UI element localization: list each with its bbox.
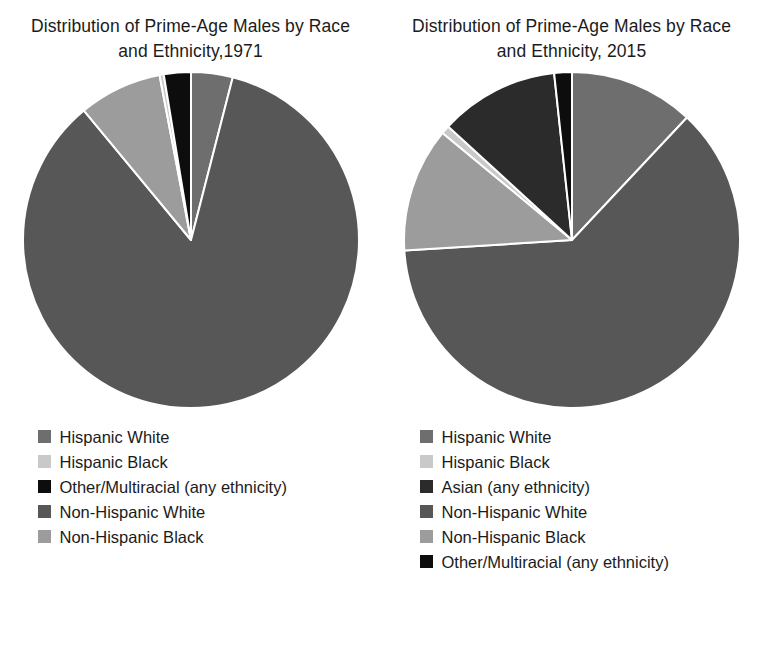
legend-item-label: Other/Multiracial (any ethnicity) — [60, 477, 287, 497]
legend-item[interactable]: Hispanic Black — [420, 449, 740, 474]
legend-swatch-icon — [420, 530, 433, 543]
legend-1971: Hispanic WhiteHispanic BlackOther/Multir… — [28, 424, 358, 549]
legend-swatch-icon — [420, 480, 433, 493]
legend-item[interactable]: Non-Hispanic White — [38, 499, 358, 524]
pie-chart-2015 — [402, 70, 742, 410]
legend-item[interactable]: Hispanic White — [420, 424, 740, 449]
legend-swatch-icon — [38, 430, 51, 443]
legend-item[interactable]: Non-Hispanic White — [420, 499, 740, 524]
pie-slices-2015 — [404, 72, 740, 408]
legend-swatch-icon — [420, 555, 433, 568]
legend-swatch-icon — [420, 430, 433, 443]
legend-item-label: Non-Hispanic White — [60, 502, 206, 522]
legend-item-label: Hispanic White — [60, 427, 170, 447]
legend-item[interactable]: Other/Multiracial (any ethnicity) — [38, 474, 358, 499]
pie-svg-1971 — [21, 70, 361, 410]
legend-item[interactable]: Hispanic White — [38, 424, 358, 449]
page-title-1971: Distribution of Prime-Age Males by Race … — [26, 14, 356, 64]
legend-item[interactable]: Asian (any ethnicity) — [420, 474, 740, 499]
legend-item[interactable]: Other/Multiracial (any ethnicity) — [420, 549, 740, 574]
legend-swatch-icon — [38, 480, 51, 493]
pie-svg-2015 — [402, 70, 742, 410]
page-title-2015: Distribution of Prime-Age Males by Race … — [407, 14, 737, 64]
legend-item-label: Hispanic Black — [442, 452, 550, 472]
legend-item-label: Other/Multiracial (any ethnicity) — [442, 552, 669, 572]
legend-swatch-icon — [38, 455, 51, 468]
pie-slices-1971 — [23, 72, 359, 408]
chart-panel-2015: Distribution of Prime-Age Males by Race … — [381, 0, 762, 669]
legend-swatch-icon — [420, 455, 433, 468]
legend-item-label: Hispanic White — [442, 427, 552, 447]
legend-item-label: Hispanic Black — [60, 452, 168, 472]
legend-item[interactable]: Non-Hispanic Black — [38, 524, 358, 549]
legend-2015: Hispanic WhiteHispanic BlackAsian (any e… — [410, 424, 740, 574]
legend-item[interactable]: Non-Hispanic Black — [420, 524, 740, 549]
legend-item-label: Non-Hispanic Black — [442, 527, 586, 547]
figure-root: Distribution of Prime-Age Males by Race … — [0, 0, 762, 669]
legend-item-label: Asian (any ethnicity) — [442, 477, 591, 497]
legend-item-label: Non-Hispanic White — [442, 502, 588, 522]
legend-item[interactable]: Hispanic Black — [38, 449, 358, 474]
legend-swatch-icon — [420, 505, 433, 518]
chart-panel-1971: Distribution of Prime-Age Males by Race … — [0, 0, 381, 669]
legend-item-label: Non-Hispanic Black — [60, 527, 204, 547]
pie-chart-1971 — [21, 70, 361, 410]
legend-swatch-icon — [38, 530, 51, 543]
legend-swatch-icon — [38, 505, 51, 518]
